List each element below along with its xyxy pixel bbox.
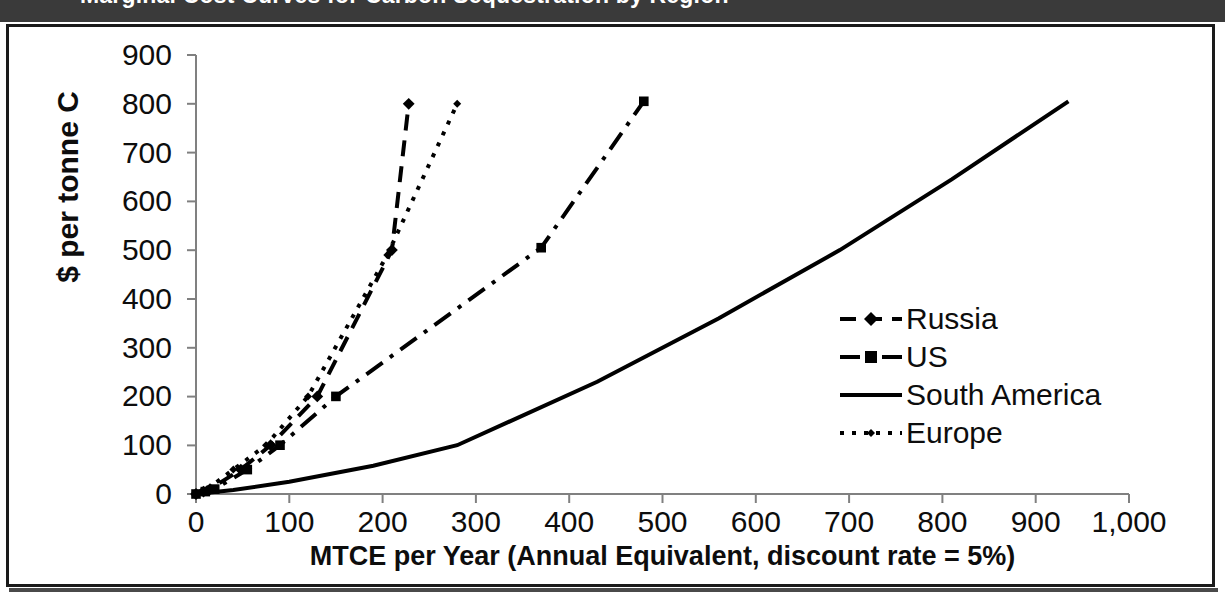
x-tick-label: 600 [731, 505, 781, 539]
y-tick-label: 200 [60, 379, 172, 413]
y-tick-label: 100 [60, 428, 172, 462]
legend-item-europe[interactable]: Europe [838, 414, 1088, 452]
x-tick-label: 800 [917, 505, 967, 539]
legend-label: Russia [906, 304, 998, 334]
legend-item-russia[interactable]: Russia [838, 300, 1088, 338]
legend-label: South America [906, 380, 1101, 410]
legend-item-south-america[interactable]: South America [838, 376, 1088, 414]
title-banner: Marginal Cost Curves for Carbon Sequestr… [0, 0, 1225, 22]
x-axis-title: MTCE per Year (Annual Equivalent, discou… [196, 541, 1129, 572]
chart-page: Marginal Cost Curves for Carbon Sequestr… [0, 0, 1225, 605]
x-tick-label: 0 [188, 505, 205, 539]
legend-item-us[interactable]: US [838, 338, 1088, 376]
chart-legend: RussiaUSSouth AmericaEurope [838, 300, 1088, 452]
legend-label: Europe [906, 418, 1003, 448]
y-tick-label: 0 [60, 477, 172, 511]
legend-key-icon [838, 380, 904, 410]
x-tick-label: 100 [264, 505, 314, 539]
x-tick-label: 200 [358, 505, 408, 539]
x-tick-label: 300 [451, 505, 501, 539]
legend-key-icon [838, 418, 904, 448]
x-tick-label: 400 [544, 505, 594, 539]
y-axis-title: $ per tonne C [51, 67, 85, 307]
legend-key-icon [838, 342, 904, 372]
legend-key-icon [838, 304, 904, 334]
x-tick-label: 700 [824, 505, 874, 539]
page-title: Marginal Cost Curves for Carbon Sequestr… [80, 0, 1160, 7]
figure-frame-shadow [9, 588, 1218, 592]
x-tick-label: 500 [637, 505, 687, 539]
y-tick-label: 300 [60, 331, 172, 365]
legend-label: US [906, 342, 948, 372]
x-tick-label: 1,000 [1091, 505, 1166, 539]
x-tick-label: 900 [1011, 505, 1061, 539]
